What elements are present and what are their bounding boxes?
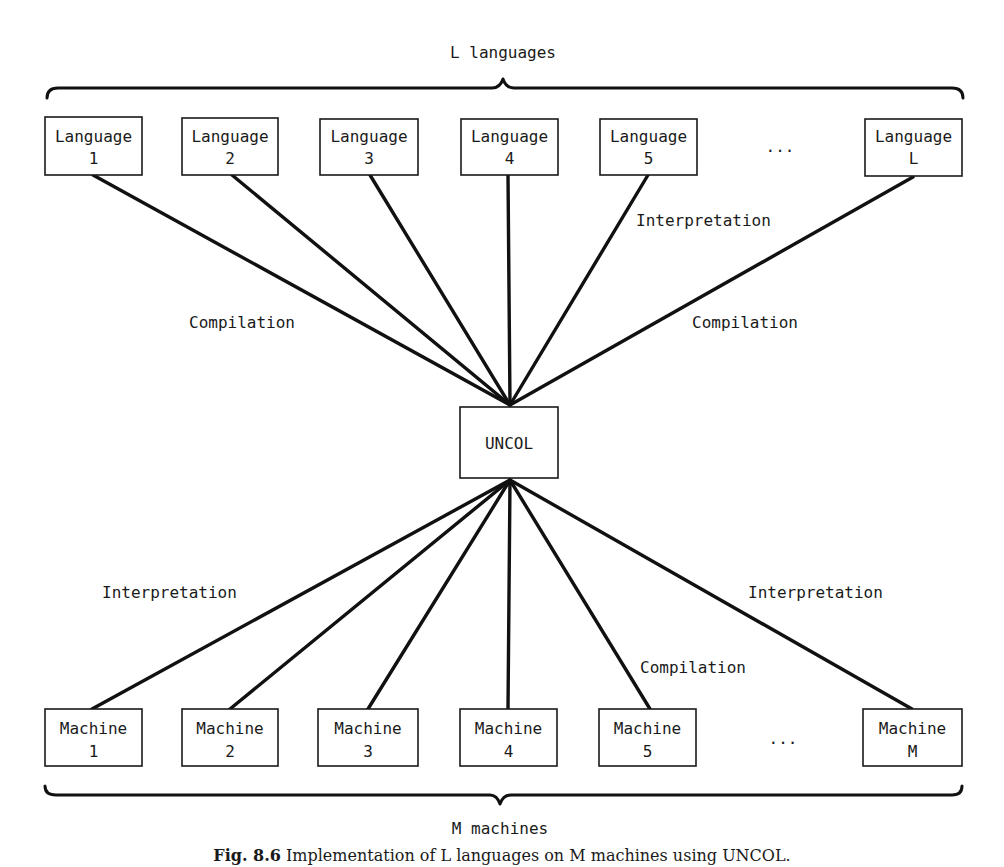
language-node-2: Language 2 <box>182 118 278 175</box>
languages-group-label: L languages <box>450 43 556 62</box>
machine-node-1: Machine 1 <box>45 709 142 766</box>
language-node-label: Language <box>875 127 952 146</box>
machine-node-label: Machine <box>614 719 681 738</box>
language-node-index: 3 <box>364 149 374 168</box>
machine-node-index: 3 <box>363 742 373 761</box>
language-edges <box>93 175 913 405</box>
edge-machine-4 <box>508 480 510 709</box>
language-node-index: 2 <box>225 149 235 168</box>
languages-ellipsis: ... <box>766 137 795 156</box>
machine-node-M: Machine M <box>863 709 962 766</box>
language-node-index: 5 <box>644 149 654 168</box>
edge-label-compilation-upper-left: Compilation <box>189 313 295 332</box>
language-node-label: Language <box>191 127 268 146</box>
language-node-label: Language <box>330 127 407 146</box>
uncol-diagram: L languages Language 1 Language 2 Langua… <box>0 0 1004 867</box>
language-node-L: Language L <box>865 119 962 176</box>
language-node-index: 4 <box>505 149 515 168</box>
uncol-label: UNCOL <box>485 434 533 453</box>
edge-language-4 <box>508 175 510 405</box>
machine-node-index: 5 <box>643 742 653 761</box>
language-node-index: 1 <box>89 149 99 168</box>
machine-node-index: M <box>908 742 918 761</box>
language-node-4: Language 4 <box>461 119 558 175</box>
machine-node-label: Machine <box>60 719 127 738</box>
edge-machine-3 <box>368 480 510 709</box>
machines-brace <box>45 786 962 804</box>
machine-node-label: Machine <box>475 719 542 738</box>
edge-language-5 <box>510 175 648 405</box>
figure-caption-text: Implementation of L languages on M machi… <box>286 846 791 865</box>
edge-machine-2 <box>230 480 510 709</box>
edge-label-interpretation-lower-left: Interpretation <box>102 583 237 602</box>
edge-label-interpretation-upper: Interpretation <box>636 211 771 230</box>
machines-ellipsis: ... <box>769 729 798 748</box>
machines-group-label: M machines <box>452 819 548 838</box>
machine-node-5: Machine 5 <box>599 709 696 766</box>
uncol-node: UNCOL <box>460 407 558 478</box>
language-node-1: Language 1 <box>45 117 142 175</box>
languages-brace <box>47 79 963 98</box>
machine-node-4: Machine 4 <box>460 709 557 766</box>
edge-language-3 <box>370 175 510 405</box>
language-node-5: Language 5 <box>600 119 697 175</box>
machine-node-label: Machine <box>196 719 263 738</box>
machine-node-index: 2 <box>225 742 235 761</box>
machine-node-index: 1 <box>89 742 99 761</box>
machine-node-label: Machine <box>879 719 946 738</box>
language-node-index: L <box>909 149 919 168</box>
edge-label-compilation-upper-right: Compilation <box>692 313 798 332</box>
figure-number: Fig. 8.6 <box>213 846 281 865</box>
edge-language-2 <box>232 175 510 405</box>
figure-caption: Fig. 8.6 Implementation of L languages o… <box>0 846 1004 865</box>
edge-language-1 <box>93 175 510 405</box>
language-node-label: Language <box>610 127 687 146</box>
language-node-label: Language <box>471 127 548 146</box>
machine-node-index: 4 <box>504 742 514 761</box>
machine-node-2: Machine 2 <box>182 709 278 766</box>
edge-label-interpretation-lower-right: Interpretation <box>748 583 883 602</box>
edge-machine-5 <box>510 480 650 709</box>
machine-node-label: Machine <box>334 719 401 738</box>
language-node-label: Language <box>55 127 132 146</box>
machine-node-3: Machine 3 <box>318 709 418 766</box>
language-node-3: Language 3 <box>320 119 418 175</box>
edge-label-compilation-lower: Compilation <box>640 658 746 677</box>
